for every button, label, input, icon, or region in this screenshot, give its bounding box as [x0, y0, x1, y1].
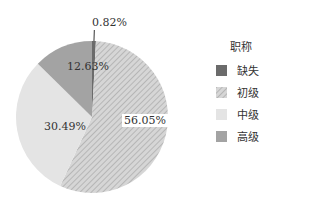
legend-label: 初级: [237, 84, 259, 100]
pie-label-3: 12.63%: [67, 60, 109, 73]
pie-label-2: 30.49%: [44, 120, 86, 133]
legend-item-missing: 缺失: [216, 64, 276, 76]
legend-item-senior: 高级: [216, 130, 276, 142]
legend: 职称 缺失 初级 中级 高级: [216, 38, 276, 152]
legend-label: 中级: [237, 106, 259, 122]
legend-label: 高级: [237, 128, 259, 144]
pie-label-0: 0.82%: [92, 16, 127, 29]
legend-item-junior: 初级: [216, 86, 276, 98]
legend-swatch: [216, 109, 227, 120]
legend-swatch: [216, 87, 227, 98]
legend-swatch: [216, 65, 227, 76]
legend-title: 职称: [230, 38, 276, 54]
legend-label: 缺失: [237, 62, 259, 78]
legend-item-intermediate: 中级: [216, 108, 276, 120]
legend-swatch: [216, 131, 227, 142]
pie-label-1: 56.05%: [124, 114, 166, 127]
